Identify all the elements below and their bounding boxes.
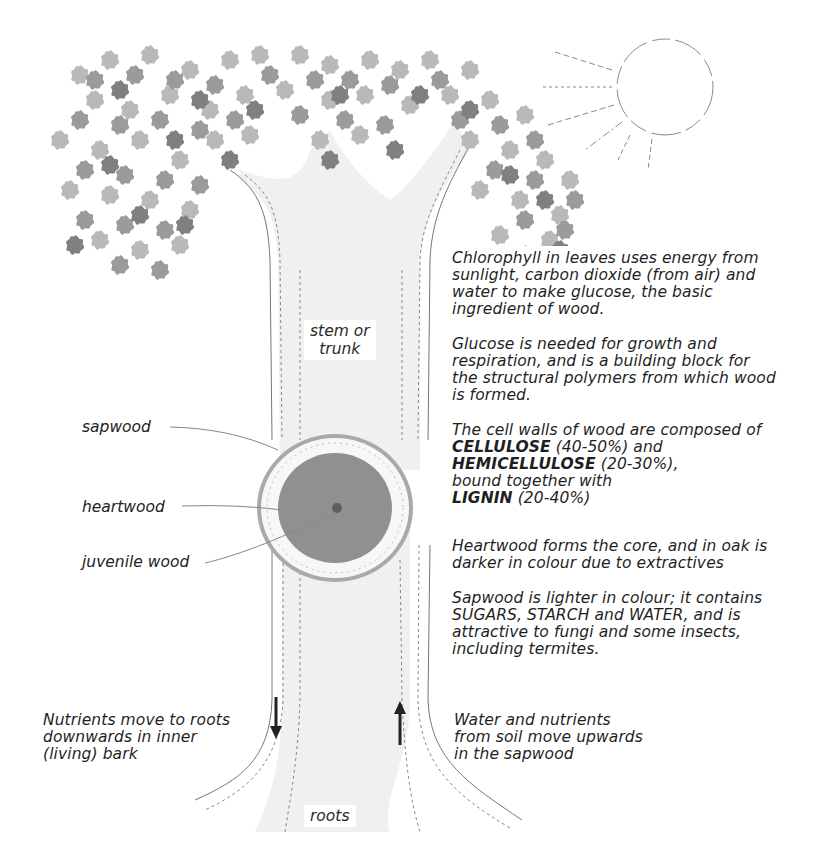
sun-icon: [540, 39, 713, 170]
lignin-term: LIGNIN: [452, 489, 513, 507]
glucose-text: Glucose is needed for growth and respira…: [452, 336, 822, 404]
bound-text: bound together with: [452, 473, 822, 490]
cellulose-pct: (40-50%) and: [551, 438, 663, 456]
heartwood-text: Heartwood forms the core, and in oak is …: [452, 538, 822, 572]
juvenile-wood-core: [332, 503, 342, 513]
heartwood-label: heartwood: [82, 498, 165, 516]
sapwood-note: Sapwood is lighter in colour; it contain…: [452, 590, 822, 658]
glucose-note: Glucose is needed for growth and respira…: [452, 336, 822, 404]
hemicellulose-term: HEMICELLULOSE: [452, 455, 596, 473]
lignin-pct: (20-40%): [513, 489, 591, 507]
juvenile-wood-label: juvenile wood: [82, 553, 189, 571]
sapwood-label: sapwood: [82, 418, 151, 436]
hemicellulose-pct: (20-30%),: [596, 455, 679, 473]
trunk-cross-section: [257, 434, 413, 582]
water-up-text: Water and nutrients from soil move upwar…: [454, 712, 704, 763]
stem-label: stem or trunk: [304, 320, 376, 360]
roots-label: roots: [304, 805, 356, 827]
nutrients-down-text: Nutrients move to roots downwards in inn…: [43, 712, 273, 763]
cell-walls-note: The cell walls of wood are composed of C…: [452, 422, 822, 507]
water-up-note: Water and nutrients from soil move upwar…: [454, 712, 704, 763]
cellulose-term: CELLULOSE: [452, 438, 551, 456]
cell-walls-intro: The cell walls of wood are composed of: [452, 422, 822, 439]
nutrients-down-note: Nutrients move to roots downwards in inn…: [43, 712, 273, 763]
chlorophyll-text: Chlorophyll in leaves uses energy from s…: [452, 250, 822, 318]
chlorophyll-note: Chlorophyll in leaves uses energy from s…: [452, 246, 822, 318]
heartwood-note: Heartwood forms the core, and in oak is …: [452, 538, 822, 572]
sapwood-text: Sapwood is lighter in colour; it contain…: [452, 590, 822, 658]
